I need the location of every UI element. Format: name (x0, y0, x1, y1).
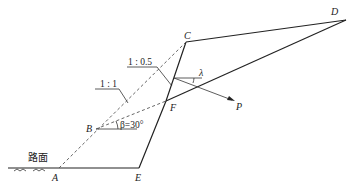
beta-arc (116, 121, 118, 129)
point-b-label: B (86, 123, 92, 134)
lambda-label: λ (198, 67, 204, 78)
force-p-label: P (235, 101, 242, 112)
arrowhead-icon (227, 96, 235, 101)
point-d-label: D (330, 6, 339, 17)
beta-label: β=30° (120, 120, 144, 130)
road-label: 路面 (28, 151, 48, 163)
original-slope-dashed-line (59, 42, 186, 168)
force-p-arrow-line (174, 78, 232, 100)
slope-ratio-1-leader (95, 89, 128, 103)
point-f-label: F (169, 102, 177, 113)
point-c-label: C (184, 30, 191, 41)
ground-hatch-icon (14, 169, 45, 171)
slope-ratio-1-label: 1 : 1 (100, 79, 117, 89)
slope-ratio-2-leader (127, 67, 172, 86)
slope-ratio-2-label: 1 : 0.5 (128, 57, 152, 67)
lambda-arc (193, 78, 194, 83)
point-e-label: E (134, 172, 141, 183)
slope-stability-diagram: 路面 β=30° 1 : 1 1 : 0.5 λ P A B C D E F (0, 0, 355, 186)
point-a-label: A (51, 172, 59, 183)
